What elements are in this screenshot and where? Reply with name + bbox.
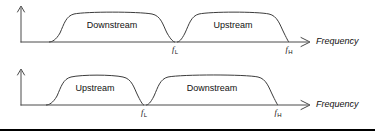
band-label-downstream-top: Downstream [87,20,138,30]
tick-label-fl-bottom: fL [141,107,148,118]
x-axis-title-top: Frequency [316,36,359,46]
tick-label-fh-top: fH [285,44,292,55]
band-label-upstream-bottom: Upstream [75,83,114,93]
band-label-upstream-top: Upstream [213,20,252,30]
x-axis-title-bottom: Frequency [316,99,359,109]
tick-label-fh-bottom: fH [274,107,281,118]
chart-top-panel: Downstream Upstream fL fH Frequency [0,0,375,62]
bottom-divider-rule [0,129,375,131]
frequency-allocation-figure: Downstream Upstream fL fH Frequency Upst… [0,0,375,135]
tick-label-fl-top: fL [172,44,179,55]
band-label-downstream-bottom: Downstream [187,83,238,93]
chart-bottom-panel: Upstream Downstream fL fH Frequency [0,60,375,122]
